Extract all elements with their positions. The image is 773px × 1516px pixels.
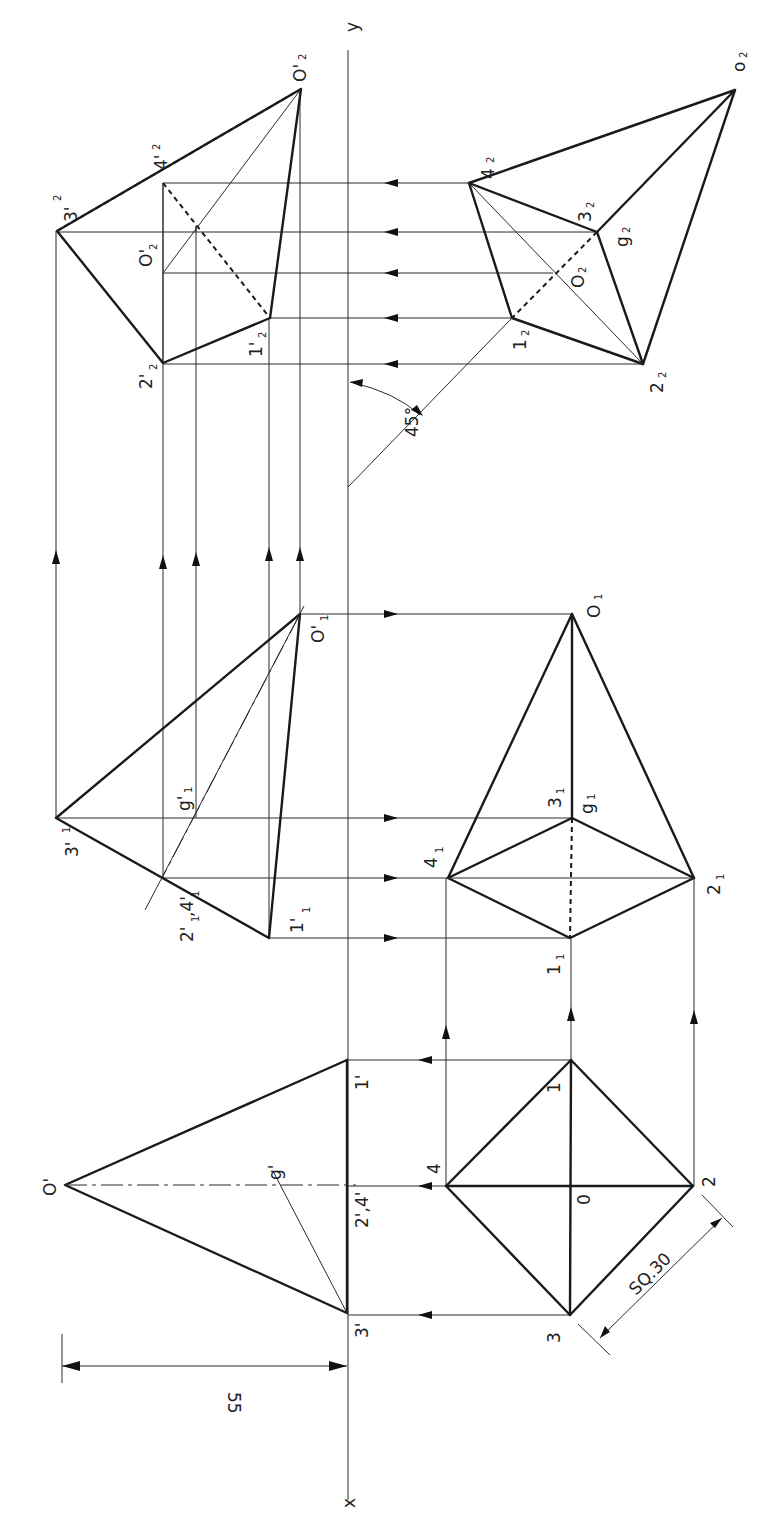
svg-text:2: 2: [577, 267, 588, 273]
projector-lines: [52, 89, 698, 1319]
svg-text:o: o: [729, 62, 749, 72]
svg-text:2': 2': [136, 374, 156, 390]
svg-text:4: 4: [424, 1163, 444, 1174]
svg-text:2: 2: [647, 382, 667, 393]
svg-text:2: 2: [699, 1176, 719, 1187]
svg-text:4: 4: [421, 857, 441, 868]
svg-text:1': 1': [352, 1075, 372, 1091]
svg-text:O': O': [308, 625, 328, 643]
svg-text:2: 2: [520, 330, 531, 336]
svg-text:g': g': [265, 1165, 285, 1180]
svg-text:55: 55: [224, 1392, 244, 1414]
svg-text:3': 3': [352, 1323, 372, 1339]
svg-text:4': 4': [151, 155, 171, 171]
svg-text:x: x: [339, 1498, 359, 1508]
angle-45-construction: [348, 318, 512, 487]
svg-text:1: 1: [593, 594, 604, 600]
svg-text:,4': ,4': [177, 896, 197, 917]
svg-text:O: O: [568, 275, 588, 288]
svg-text:g: g: [612, 236, 632, 247]
svg-text:SQ.30: SQ.30: [625, 1248, 675, 1298]
svg-text:3: 3: [544, 1332, 564, 1343]
aux1-top-view: [448, 614, 694, 938]
svg-text:2: 2: [52, 195, 63, 201]
svg-text:1: 1: [301, 907, 312, 913]
svg-text:3: 3: [575, 211, 595, 222]
aux1-front-view: [56, 606, 304, 938]
svg-text:O: O: [584, 605, 604, 618]
svg-text:2: 2: [297, 54, 308, 60]
svg-text:2: 2: [621, 227, 632, 233]
svg-text:1': 1': [287, 918, 307, 934]
svg-text:2: 2: [585, 202, 596, 208]
aux2-top-view: [469, 90, 735, 364]
svg-text:g: g: [577, 803, 597, 814]
aux2-front-view: [57, 89, 301, 363]
svg-text:1: 1: [434, 847, 445, 853]
svg-text:1: 1: [510, 339, 530, 350]
svg-text:2: 2: [657, 372, 668, 378]
front-view: [65, 1060, 356, 1313]
svg-text:2: 2: [738, 52, 749, 58]
projection-drawing: x y O' 3' 2',4' 1' g' 55 1 2 3 4 0 SQ.30…: [0, 0, 773, 1516]
svg-text:3': 3': [62, 842, 82, 858]
svg-text:O': O': [290, 64, 310, 82]
svg-text:1: 1: [715, 874, 726, 880]
svg-text:1: 1: [555, 788, 566, 794]
svg-text:1: 1: [183, 787, 194, 793]
dimension-55: [62, 1334, 347, 1383]
svg-text:2: 2: [148, 244, 159, 250]
svg-text:2: 2: [257, 332, 268, 338]
svg-text:3: 3: [545, 797, 565, 808]
svg-text:2: 2: [148, 364, 159, 370]
svg-text:O': O': [136, 249, 156, 267]
svg-text:2: 2: [704, 884, 724, 895]
svg-text:1: 1: [190, 891, 201, 897]
svg-text:1: 1: [555, 954, 566, 960]
svg-text:1: 1: [586, 794, 597, 800]
svg-text:2': 2': [177, 927, 197, 943]
svg-text:O': O': [40, 1178, 60, 1196]
svg-text:0: 0: [574, 1194, 594, 1205]
svg-text:1': 1': [246, 342, 266, 358]
svg-text:g': g': [174, 796, 194, 811]
svg-text:y: y: [342, 22, 362, 32]
svg-text:4: 4: [478, 168, 498, 179]
svg-text:45°: 45°: [402, 407, 422, 437]
svg-text:3': 3': [61, 207, 81, 223]
svg-text:1: 1: [544, 1082, 564, 1093]
svg-text:1: 1: [61, 827, 72, 833]
svg-text:1: 1: [544, 964, 564, 975]
svg-text:2',4': 2',4': [352, 1192, 372, 1228]
svg-text:1: 1: [319, 615, 330, 621]
svg-text:2: 2: [151, 144, 162, 150]
svg-text:2: 2: [485, 157, 496, 163]
